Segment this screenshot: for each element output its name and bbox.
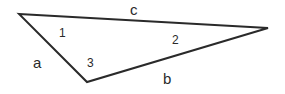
angle-label-3: 3 — [87, 56, 94, 70]
side-label-b: b — [163, 70, 171, 87]
triangle-shape — [19, 14, 268, 82]
angle-label-2: 2 — [172, 33, 179, 47]
angle-label-1: 1 — [59, 26, 66, 40]
triangle-diagram: c a b 1 2 3 — [0, 0, 285, 94]
side-label-c: c — [130, 1, 138, 18]
side-label-a: a — [33, 54, 42, 71]
